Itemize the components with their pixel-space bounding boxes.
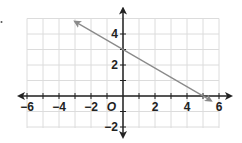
- plotted-line: [75, 22, 211, 101]
- y-tick-label: 4: [111, 27, 118, 41]
- x-tick-label: −4: [52, 100, 66, 114]
- x-tick-label: 2: [152, 100, 159, 114]
- x-tick-label: −6: [20, 100, 34, 114]
- y-tick-label: 2: [111, 58, 118, 72]
- coordinate-graph: −6−4−224642−2O: [0, 0, 242, 143]
- y-tick-label: −2: [104, 120, 118, 134]
- x-tick-label: −2: [84, 100, 98, 114]
- origin-label: O: [107, 100, 117, 114]
- edge-mark: [1, 21, 3, 23]
- x-tick-label: 4: [184, 100, 191, 114]
- x-tick-label: 6: [216, 100, 223, 114]
- plotted-line-arrow-start: [75, 22, 211, 101]
- axes: [19, 9, 231, 138]
